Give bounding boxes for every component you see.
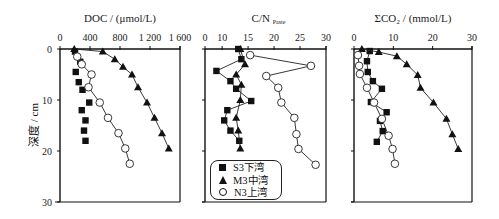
filled-square-marker (73, 69, 79, 75)
legend-item-m3: M3中湾 (219, 175, 281, 188)
legend: S3下湾 M3中湾 N3上湾 (210, 160, 282, 200)
legend-item-n3: N3上湾 (219, 187, 281, 200)
open-circle-marker (389, 145, 397, 153)
filled-triangle-marker (416, 84, 424, 91)
open-circle-marker (96, 99, 104, 107)
open-circle-marker (246, 51, 254, 59)
filled-square-marker (227, 78, 233, 84)
y-tick-label: 0 (47, 44, 52, 55)
filled-square-marker (364, 58, 370, 64)
x-tick-label: 1 600 (169, 32, 192, 43)
open-circle-marker (278, 99, 286, 107)
filled-square-marker (380, 128, 386, 134)
x-tick-label: 20 (428, 32, 438, 43)
open-circle-marker (126, 160, 134, 168)
series-S3下湾 (364, 48, 390, 145)
open-circle-marker (312, 161, 320, 169)
filled-square-marker (374, 139, 380, 145)
filled-triangle-marker (237, 81, 245, 88)
filled-square-marker (383, 109, 389, 115)
open-circle-marker (378, 115, 386, 123)
open-circle-marker (85, 83, 93, 91)
open-circle-marker (295, 145, 303, 153)
x-tick-label: 10 (388, 32, 398, 43)
open-circle-marker (121, 145, 129, 153)
filled-square-marker (76, 79, 82, 85)
filled-triangle-marker (236, 144, 244, 151)
open-circle-marker (370, 99, 378, 107)
filled-triangle-marker (234, 127, 242, 134)
x-tick-label: 30 (467, 32, 477, 43)
open-circle-marker (363, 84, 371, 92)
open-circle-marker (73, 53, 81, 61)
y-tick-label: 20 (42, 146, 52, 157)
x-tick-label: 25 (295, 32, 305, 43)
filled-triangle-marker (151, 114, 159, 121)
chart-title: ΣCO₂ / (mmol/L) (375, 12, 452, 25)
legend-label: N3上湾 (234, 187, 267, 198)
x-tick-label: 30 (321, 32, 331, 43)
y-axis-label: 深度 / cm (25, 95, 41, 155)
x-tick-label: 20 (269, 32, 279, 43)
y-tick-label: 10 (42, 95, 52, 106)
filled-square-marker (82, 117, 88, 123)
open-circle-marker (356, 70, 364, 78)
chart-title: DOC / (μmol/L) (84, 12, 156, 25)
open-circle-marker (274, 84, 282, 92)
open-circle-marker (115, 129, 123, 137)
x-tick-label: 15 (243, 32, 253, 43)
filled-triangle-marker (236, 96, 244, 103)
legend-item-s3: S3下湾 (219, 162, 281, 175)
open-circle-marker (307, 62, 315, 70)
filled-square-marker (213, 68, 219, 74)
series-N3上湾 (354, 51, 399, 167)
x-tick-label: 1 200 (139, 32, 162, 43)
filled-triangle-marker (111, 55, 119, 62)
filled-square-marker (79, 107, 85, 113)
open-circle-marker (78, 61, 86, 69)
filled-triangle-marker (165, 144, 173, 151)
filled-triangle-icon (219, 176, 227, 184)
filled-square-marker (248, 98, 254, 104)
filled-triangle-marker (403, 60, 411, 67)
open-circle-marker (291, 114, 299, 122)
open-circle-marker (354, 51, 362, 59)
open-circle-marker (104, 114, 112, 122)
filled-square-marker (370, 78, 376, 84)
filled-triangle-marker (232, 114, 240, 121)
filled-square-marker (82, 138, 88, 144)
filled-square-marker (365, 69, 371, 75)
open-circle-marker (88, 71, 96, 79)
open-circle-icon (219, 188, 227, 196)
x-tick-label: 10 (217, 32, 227, 43)
filled-square-marker (86, 99, 92, 105)
chart-title: C/N Paste (252, 12, 286, 25)
filled-square-marker (81, 127, 87, 133)
series-N3上湾 (246, 51, 319, 168)
filled-triangle-marker (448, 130, 456, 137)
open-circle-marker (355, 62, 363, 70)
filled-square-marker (379, 86, 385, 92)
legend-label: S3下湾 (233, 162, 264, 173)
filled-square-marker (224, 107, 230, 113)
chart-panel-1: 04008001 2001 6000102030DOC / (μmol/L) (42, 12, 191, 208)
open-circle-marker (262, 72, 270, 80)
legend-label: M3中湾 (233, 175, 268, 186)
open-circle-marker (391, 160, 399, 168)
filled-square-marker (221, 117, 227, 123)
x-tick-label: 400 (83, 32, 98, 43)
x-tick-label: 800 (113, 32, 128, 43)
y-tick-label: 30 (42, 197, 52, 208)
open-circle-marker (293, 130, 301, 138)
filled-triangle-marker (134, 83, 142, 90)
chart-panel-3: 0102030ΣCO₂ / (mmol/L) (351, 12, 477, 202)
series-S3下湾 (213, 46, 254, 144)
filled-square-icon (219, 164, 226, 171)
open-circle-marker (385, 132, 393, 140)
filled-square-marker (227, 127, 233, 133)
filled-triangle-marker (143, 99, 151, 106)
x-tick-label: 0 (203, 32, 208, 43)
x-tick-label: 0 (352, 32, 357, 43)
filled-triangle-marker (158, 129, 166, 136)
x-tick-label: 0 (58, 32, 63, 43)
